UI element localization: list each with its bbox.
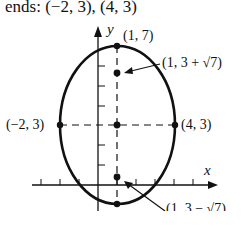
right-vertex-label: (4, 3) <box>181 118 211 132</box>
y-axis-arrow-icon <box>94 26 102 37</box>
lower-focus-point <box>114 174 121 181</box>
left-vertex-label: (−2, 3) <box>6 118 44 132</box>
x-axis-arrow-icon <box>208 181 218 189</box>
right-vertex-point <box>172 122 178 128</box>
y-axis-ticks <box>98 66 105 165</box>
x-axis-label: x <box>204 163 211 178</box>
center-point <box>114 122 121 129</box>
bottom-vertex-point <box>114 201 120 207</box>
y-axis-label: y <box>107 22 114 37</box>
top-vertex-label: (1, 7) <box>123 29 153 43</box>
lower-focus-pointer <box>128 184 165 211</box>
upper-focus-arrowhead-icon <box>124 67 133 74</box>
left-vertex-point <box>57 122 63 128</box>
top-vertex-point <box>114 43 120 49</box>
upper-focus-point <box>114 70 121 77</box>
lower-focus-label: (1, 3 − √7) <box>166 202 226 211</box>
upper-focus-label: (1, 3 + √7) <box>162 56 222 70</box>
